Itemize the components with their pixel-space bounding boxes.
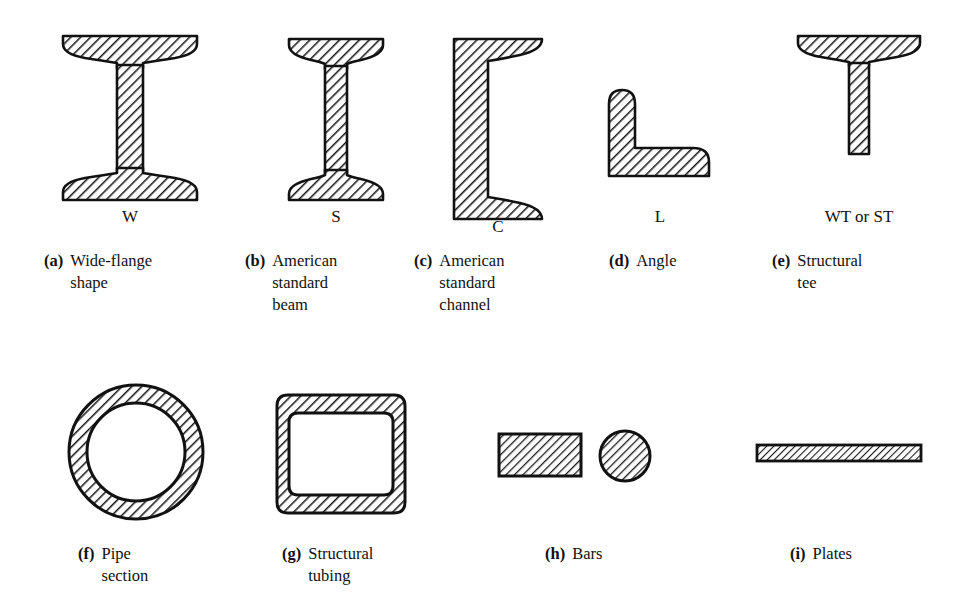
designation-standard-beam: S <box>283 208 389 225</box>
caption-text: Structural tubing <box>308 543 373 587</box>
shape-structural-tubing <box>274 392 408 516</box>
structural-shapes-figure: W S C L WT or ST <box>0 0 961 612</box>
designation-channel: C <box>450 218 546 235</box>
designation-angle: L <box>605 208 715 225</box>
caption-text: Structural tee <box>797 250 862 294</box>
caption-letter: (e) <box>772 250 790 272</box>
caption-letter: (g) <box>282 543 301 565</box>
caption-letter: (h) <box>545 543 565 565</box>
shape-plate <box>755 443 923 465</box>
caption-standard-beam: (b) American standard beam <box>245 250 395 315</box>
caption-text: American standard channel <box>439 250 504 315</box>
caption-text: Pipe section <box>101 543 148 587</box>
shape-channel <box>450 36 546 222</box>
shape-pipe-section <box>66 382 206 522</box>
designation-structural-tee: WT or ST <box>778 208 940 225</box>
caption-letter: (a) <box>44 250 63 272</box>
caption-text: Wide-flange shape <box>70 250 152 294</box>
caption-text: American standard beam <box>272 250 337 315</box>
shape-angle <box>605 86 715 180</box>
caption-letter: (b) <box>245 250 265 272</box>
shape-bar-round <box>597 428 653 484</box>
caption-letter: (f) <box>78 543 94 565</box>
caption-pipe-section: (f) Pipe section <box>78 543 228 587</box>
caption-bars: (h) Bars <box>545 543 685 565</box>
caption-text: Bars <box>572 543 602 565</box>
caption-letter: (d) <box>609 250 629 272</box>
caption-structural-tubing: (g) Structural tubing <box>282 543 442 587</box>
shape-structural-tee <box>793 32 925 158</box>
shape-bar-rectangular <box>497 432 583 478</box>
caption-text: Plates <box>813 543 852 565</box>
shape-wide-flange <box>55 32 205 204</box>
caption-structural-tee: (e) Structural tee <box>772 250 937 294</box>
caption-letter: (i) <box>790 543 806 565</box>
caption-plates: (i) Plates <box>790 543 930 565</box>
shape-standard-beam <box>283 36 389 204</box>
caption-letter: (c) <box>414 250 432 272</box>
caption-text: Angle <box>636 250 676 272</box>
designation-wide-flange: W <box>55 208 205 225</box>
caption-wide-flange: (a) Wide-flange shape <box>44 250 194 294</box>
caption-angle: (d) Angle <box>609 250 759 272</box>
caption-standard-channel: (c) American standard channel <box>414 250 564 315</box>
